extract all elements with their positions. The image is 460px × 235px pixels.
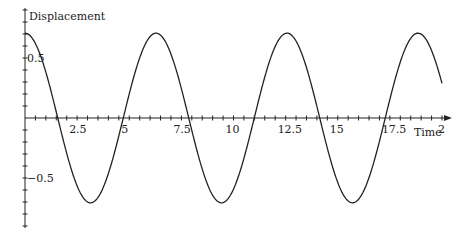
- y-axis-label: Displacement: [29, 10, 106, 23]
- chart: Displacement Time 2.557.51012.51517.52 0…: [0, 0, 460, 235]
- x-tick-labels: 2.557.51012.51517.52: [69, 123, 445, 136]
- x-tick-label: 5: [121, 123, 128, 136]
- x-tick-label: 2: [438, 123, 445, 136]
- x-tick-label: 17.5: [382, 123, 407, 136]
- x-tick-label: 7.5: [173, 123, 191, 136]
- x-tick-label: 12.5: [278, 123, 303, 136]
- x-axis-arrow-icon: [444, 115, 452, 121]
- y-tick-label: −0.5: [27, 172, 54, 185]
- x-tick-label: 10: [226, 123, 240, 136]
- x-tick-label: 15: [330, 123, 344, 136]
- y-tick-label: 0.5: [27, 52, 45, 65]
- x-tick-label: 2.5: [69, 123, 87, 136]
